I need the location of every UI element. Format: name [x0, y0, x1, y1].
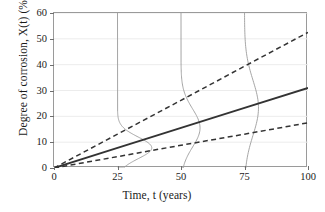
y-tick: [50, 39, 54, 40]
y-tick: [50, 91, 54, 92]
y-tick-label: 10: [37, 137, 48, 148]
y-tick: [50, 65, 54, 66]
x-tick: [181, 166, 182, 170]
x-tick-label: 25: [112, 172, 123, 183]
plot-canvas: [54, 13, 308, 168]
plot-area: 0102030405060 0255075100: [53, 12, 307, 167]
x-tick-label: 0: [51, 172, 56, 183]
y-tick-label: 20: [37, 111, 48, 122]
corrosion-degree-chart: Degree of corrosion, X(t) (%) 0102030405…: [0, 0, 325, 212]
x-tick: [245, 166, 246, 170]
y-tick-label: 50: [37, 34, 48, 45]
x-tick: [118, 166, 119, 170]
y-tick: [50, 116, 54, 117]
x-tick: [308, 166, 309, 170]
y-tick-label: 40: [37, 59, 48, 70]
y-axis-title: Degree of corrosion, X(t) (%): [17, 0, 29, 141]
x-axis-title: Time, t (years): [30, 189, 284, 201]
x-tick: [54, 166, 55, 170]
x-tick-label: 100: [300, 172, 316, 183]
y-tick: [50, 13, 54, 14]
y-tick-label: 0: [42, 163, 47, 174]
y-tick-label: 60: [37, 8, 48, 19]
y-tick-label: 30: [37, 85, 48, 96]
x-tick-label: 75: [239, 172, 250, 183]
x-tick-label: 50: [176, 172, 187, 183]
y-tick: [50, 142, 54, 143]
